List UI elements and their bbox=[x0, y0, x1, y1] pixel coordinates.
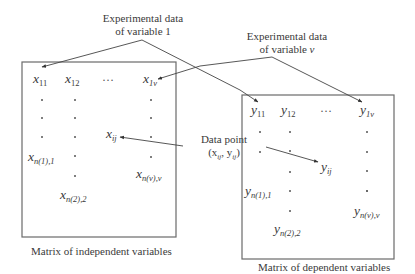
dot bbox=[150, 156, 152, 158]
dot bbox=[74, 99, 76, 101]
caption-dependent-matrix: Matrix of dependent variables bbox=[258, 261, 390, 273]
dot bbox=[150, 99, 152, 101]
paren-x: (x bbox=[208, 146, 217, 158]
ellipsis-x: … bbox=[102, 70, 114, 85]
dot bbox=[289, 210, 291, 212]
dot bbox=[41, 99, 43, 101]
arrow-var1-to-x11 bbox=[42, 40, 142, 67]
y12: y12 bbox=[281, 103, 296, 121]
y-n2-2: yn(2),2 bbox=[274, 222, 301, 240]
dot bbox=[74, 117, 76, 119]
x11: x11 bbox=[33, 72, 47, 90]
dot bbox=[366, 170, 368, 172]
caption-independent-matrix: Matrix of independent variables bbox=[31, 245, 172, 257]
dot bbox=[366, 131, 368, 133]
y11: y11 bbox=[251, 103, 265, 121]
paren-close: ) bbox=[236, 146, 240, 158]
dot bbox=[150, 136, 152, 138]
arrow-datapoint-to-yij bbox=[266, 147, 318, 162]
label-line-1: Experimental data bbox=[232, 30, 342, 43]
label-line-1: Data point bbox=[184, 133, 264, 146]
dot bbox=[41, 136, 43, 138]
label-experimental-data-variable-v: Experimental data of variable v bbox=[232, 30, 342, 56]
label-data-point: Data point (xij, yij) bbox=[184, 133, 264, 164]
label-var: v bbox=[310, 43, 315, 55]
dot bbox=[259, 151, 261, 153]
dot bbox=[150, 117, 152, 119]
yij: yij bbox=[321, 160, 332, 178]
x-nv-v: xn(v),v bbox=[136, 167, 162, 185]
dot bbox=[366, 190, 368, 192]
x12: x12 bbox=[65, 72, 80, 90]
ellipsis-y: … bbox=[320, 101, 332, 116]
label-experimental-data-variable-1: Experimental data of variable 1 bbox=[88, 12, 198, 38]
y-nv-v: yn(v),v bbox=[354, 204, 380, 222]
dot bbox=[289, 150, 291, 152]
arrow-datapoint-to-xij bbox=[120, 137, 183, 146]
x-n1-1: xn(1),1 bbox=[28, 150, 55, 168]
label-line-2: of variable 1 bbox=[88, 25, 198, 38]
dot bbox=[366, 151, 368, 153]
dot bbox=[74, 155, 76, 157]
dot bbox=[259, 131, 261, 133]
xij: xij bbox=[106, 127, 117, 145]
dot bbox=[41, 117, 43, 119]
y1v: y1v bbox=[360, 103, 374, 121]
y-n1-1: yn(1),1 bbox=[245, 184, 272, 202]
x-n2-2: xn(2),2 bbox=[60, 188, 87, 206]
comma-y: , y bbox=[221, 146, 232, 158]
label-line-2: of variable v bbox=[232, 43, 342, 56]
arrow-varv-to-x1v bbox=[158, 57, 272, 79]
label-line-1: Experimental data bbox=[88, 12, 198, 25]
dot bbox=[74, 175, 76, 177]
label-line-2: (xij, yij) bbox=[184, 146, 264, 164]
dot bbox=[289, 171, 291, 173]
x1v: x1v bbox=[143, 72, 157, 90]
dot bbox=[289, 190, 291, 192]
dot bbox=[74, 136, 76, 138]
label-text: of variable bbox=[260, 43, 310, 55]
dot bbox=[289, 131, 291, 133]
